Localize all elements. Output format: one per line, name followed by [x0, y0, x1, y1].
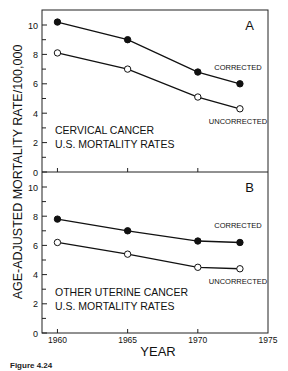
y-tick-label: 10	[28, 183, 38, 193]
chart-panels: 0246810ACERVICAL CANCERU.S. MORTALITY RA…	[28, 18, 278, 345]
x-tick-label: 1970	[188, 335, 207, 345]
y-tick-label: 10	[28, 21, 38, 31]
y-tick-label: 4	[33, 109, 38, 119]
panel-label: B	[245, 180, 254, 195]
open-marker-icon	[195, 264, 201, 270]
open-marker-icon	[54, 239, 60, 245]
filled-marker-icon	[54, 216, 60, 222]
y-tick-label: 6	[33, 241, 38, 251]
y-tick-label: 8	[33, 50, 38, 60]
panel-label: A	[245, 18, 254, 33]
series-label: UNCORRECTED	[209, 117, 268, 126]
open-marker-icon	[237, 266, 243, 272]
series-label: UNCORRECTED	[209, 277, 268, 286]
x-tick-label: 1960	[48, 335, 67, 345]
series-line-corrected	[57, 22, 239, 84]
x-tick-label: 1965	[118, 335, 137, 345]
filled-marker-icon	[124, 228, 130, 234]
filled-marker-icon	[237, 81, 243, 87]
x-axis-label: YEAR	[140, 344, 175, 359]
y-axis-label: AGE-ADJUSTED MORTALITY RATE/100,000	[11, 45, 25, 300]
series-line-uncorrected	[57, 242, 239, 268]
filled-marker-icon	[237, 239, 243, 245]
y-tick-label: 0	[33, 329, 38, 339]
open-marker-icon	[195, 94, 201, 100]
filled-marker-icon	[124, 37, 130, 43]
panel-title: CERVICAL CANCER	[55, 124, 155, 136]
open-marker-icon	[124, 66, 130, 72]
open-marker-icon	[124, 251, 130, 257]
panel-title: U.S. MORTALITY RATES	[55, 138, 174, 150]
series-line-uncorrected	[57, 53, 239, 109]
panel-b: 0246810BOTHER UTERINE CANCERU.S. MORTALI…	[28, 180, 268, 339]
mortality-chart: 0246810ACERVICAL CANCERU.S. MORTALITY RA…	[0, 0, 288, 371]
y-tick-label: 4	[33, 270, 38, 280]
figure-caption: Figure 4.24	[10, 361, 52, 370]
y-tick-label: 2	[33, 138, 38, 148]
open-marker-icon	[237, 106, 243, 112]
y-tick-label: 8	[33, 212, 38, 222]
y-tick-label: 2	[33, 299, 38, 309]
panel-a: 0246810ACERVICAL CANCERU.S. MORTALITY RA…	[28, 18, 268, 178]
series-line-corrected	[57, 219, 239, 242]
filled-marker-icon	[195, 238, 201, 244]
x-tick-label: 1975	[259, 335, 278, 345]
open-marker-icon	[54, 50, 60, 56]
series-label: CORRECTED	[214, 63, 262, 72]
filled-marker-icon	[54, 19, 60, 25]
y-tick-label: 0	[33, 168, 38, 178]
filled-marker-icon	[195, 69, 201, 75]
panel-title: U.S. MORTALITY RATES	[55, 300, 174, 312]
series-label: CORRECTED	[214, 221, 262, 230]
y-tick-label: 6	[33, 79, 38, 89]
panel-title: OTHER UTERINE CANCER	[55, 286, 188, 298]
